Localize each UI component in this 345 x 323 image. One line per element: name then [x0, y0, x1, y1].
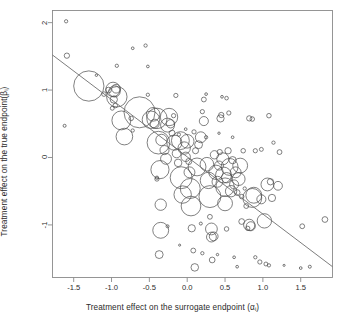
- data-point-bubble: [250, 117, 255, 122]
- data-point-bubble: [244, 219, 255, 230]
- data-point-bubble: [177, 133, 180, 136]
- data-point-bubble: [268, 194, 275, 201]
- data-point-bubble: [207, 214, 212, 219]
- data-point-bubble: [174, 159, 182, 167]
- data-point-bubble: [217, 115, 224, 122]
- data-point-bubble: [64, 20, 67, 23]
- y-tick-label-text: 2: [39, 21, 48, 25]
- y-tick-label-text: -1: [39, 222, 48, 229]
- x-tick-label: 0.5: [220, 283, 231, 292]
- data-point-bubble: [209, 257, 215, 263]
- y-tick-label-text: 0: [39, 155, 48, 159]
- data-point-bubble: [146, 93, 149, 96]
- data-point-bubble: [259, 147, 263, 151]
- data-point-bubble: [131, 47, 134, 50]
- data-point-bubble: [233, 158, 248, 173]
- data-point-bubble: [129, 116, 134, 121]
- y-tick-label-text: 1: [39, 88, 48, 92]
- data-point-bubble: [225, 148, 231, 154]
- data-point-bubble: [174, 93, 178, 97]
- data-point-bubble: [64, 53, 69, 58]
- x-tick-label: -1.0: [105, 283, 118, 292]
- plot-frame: [53, 11, 333, 278]
- data-point-bubble: [200, 110, 204, 114]
- data-point-bubble: [201, 97, 206, 102]
- data-point-bubble: [241, 148, 246, 153]
- data-point-bubble: [225, 96, 229, 100]
- data-point-bubble: [254, 256, 257, 259]
- data-point-bubble: [74, 71, 104, 101]
- data-point-bubble: [206, 223, 218, 235]
- data-point-bubble: [267, 113, 272, 118]
- data-point-bubble: [200, 157, 214, 171]
- data-point-bubble: [116, 128, 133, 145]
- data-point-bubble: [272, 141, 275, 144]
- y-axis-title-wrapper: Treatment effect on the true endpoint(βi…: [0, 0, 16, 323]
- data-point-bubble: [258, 260, 262, 264]
- y-axis-title: Treatment effect on the true endpoint(βi…: [0, 0, 9, 323]
- bubble-scatter-figure: Treatment effect on the surrogate endpoi…: [0, 0, 345, 323]
- data-point-bubble: [224, 227, 229, 232]
- data-point-bubble: [277, 150, 282, 155]
- data-point-bubble: [322, 217, 328, 223]
- x-tick-label: -0.5: [143, 283, 156, 292]
- data-point-bubble: [216, 253, 218, 255]
- data-point-bubble: [243, 187, 246, 190]
- data-point-bubble: [205, 93, 208, 96]
- y-tick-label: 2: [39, 21, 48, 25]
- data-point-bubble: [199, 117, 208, 126]
- data-point-bubble: [218, 196, 233, 211]
- data-point-bubble: [179, 244, 181, 246]
- data-point-bubble: [184, 167, 195, 178]
- x-tick-label: 1.5: [295, 283, 306, 292]
- data-point-bubble: [192, 130, 196, 134]
- data-point-bubble: [209, 232, 218, 241]
- data-point-bubble: [201, 252, 204, 255]
- data-point-bubble: [308, 265, 311, 268]
- data-point-bubble: [144, 44, 147, 47]
- x-axis-title: Treatment effect on the surrogate endpoi…: [0, 303, 345, 312]
- data-point-bubble: [243, 188, 262, 207]
- data-point-bubble: [231, 136, 234, 139]
- y-axis-tick-marks: [48, 23, 53, 225]
- x-tick-label: 0.0: [182, 283, 193, 292]
- data-point-bubble: [191, 264, 199, 272]
- data-point-bubble: [110, 106, 114, 110]
- data-point-bubble: [253, 149, 257, 153]
- data-point-bubble: [188, 225, 195, 232]
- data-point-bubble: [181, 196, 201, 216]
- data-point-bubble: [283, 264, 285, 266]
- data-point-bubble: [227, 111, 231, 115]
- regression-line: [53, 55, 333, 267]
- data-point-bubble: [274, 181, 283, 190]
- data-point-bubble: [218, 132, 220, 134]
- x-tick-label: 1.0: [258, 283, 269, 292]
- data-point-bubble: [221, 95, 224, 98]
- data-point-bubble: [267, 179, 273, 185]
- data-point-bubble: [115, 64, 118, 67]
- data-point-bubble: [155, 199, 166, 210]
- data-point-bubble: [63, 124, 66, 127]
- y-tick-label: 0: [39, 155, 48, 159]
- x-axis-tick-marks: [74, 278, 301, 283]
- data-point-bubble: [233, 256, 236, 259]
- data-point-bubble: [155, 251, 163, 259]
- data-point-bubble: [131, 129, 134, 132]
- data-point-bubble: [151, 161, 169, 179]
- data-point-bubble: [199, 222, 202, 225]
- data-point-bubble: [153, 222, 169, 238]
- data-point-bubble: [299, 267, 302, 270]
- data-point-bubble: [191, 248, 196, 253]
- y-tick-label: 1: [39, 88, 48, 92]
- data-point-bubble: [230, 167, 241, 178]
- data-point-bubble: [300, 224, 305, 229]
- data-point-bubble: [109, 86, 120, 97]
- data-point-bubble: [171, 114, 175, 118]
- data-point-bubble: [257, 214, 271, 228]
- plot-canvas: [0, 0, 345, 323]
- y-tick-label: -1: [39, 222, 48, 229]
- data-point-bubble: [146, 65, 149, 68]
- data-point-bubble: [184, 128, 187, 131]
- data-point-bubble: [166, 120, 174, 128]
- data-point-bubble: [172, 149, 181, 158]
